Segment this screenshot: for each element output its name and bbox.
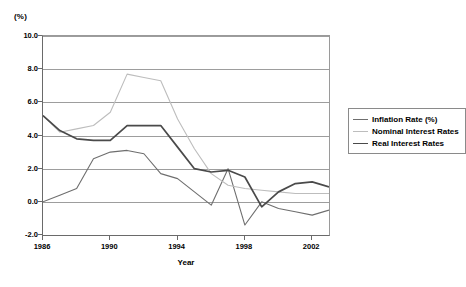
x-axis-title: Year bbox=[42, 258, 330, 267]
x-axis-tick-mark bbox=[311, 236, 312, 240]
legend-label: Nominal Interest Rates bbox=[372, 127, 459, 136]
x-axis-tick-mark bbox=[177, 236, 178, 240]
x-axis-tick: 1994 bbox=[168, 242, 185, 251]
x-axis-tick-mark bbox=[109, 236, 110, 240]
x-axis-tick: 2002 bbox=[303, 242, 320, 251]
y-axis-tick-labels: 10.08.06.04.02.00.0-2.0 bbox=[8, 0, 38, 201]
y-axis-tick: -2.0 bbox=[10, 230, 38, 239]
legend-label: Inflation Rate (%) bbox=[372, 115, 437, 124]
y-axis-tick: 4.0 bbox=[10, 131, 38, 140]
legend-swatch-icon bbox=[353, 119, 368, 120]
series-lines bbox=[43, 36, 329, 235]
x-axis-tick: 1998 bbox=[236, 242, 253, 251]
legend-item: Real Interest Rates bbox=[353, 137, 459, 149]
legend-label: Real Interest Rates bbox=[372, 139, 444, 148]
y-axis-tick: 2.0 bbox=[10, 164, 38, 173]
legend-item: Nominal Interest Rates bbox=[353, 125, 459, 137]
legend-swatch-icon bbox=[353, 143, 368, 144]
x-axis-tick: 1986 bbox=[34, 242, 51, 251]
y-axis-tick: 6.0 bbox=[10, 97, 38, 106]
series-line bbox=[43, 74, 329, 193]
series-svg bbox=[43, 36, 329, 235]
x-axis-tick-mark bbox=[42, 236, 43, 240]
y-axis-tick: 8.0 bbox=[10, 64, 38, 73]
x-axis-tick-mark bbox=[244, 236, 245, 240]
legend-item: Inflation Rate (%) bbox=[353, 113, 459, 125]
chart-legend: Inflation Rate (%)Nominal Interest Rates… bbox=[348, 108, 466, 154]
x-axis-tick-labels: 19861990199419982002 bbox=[42, 236, 332, 258]
y-axis-tick: 10.0 bbox=[10, 31, 38, 40]
x-axis-tick: 1990 bbox=[101, 242, 118, 251]
y-axis-tick: 0.0 bbox=[10, 197, 38, 206]
legend-swatch-icon bbox=[353, 131, 368, 132]
plot-area bbox=[42, 35, 330, 236]
